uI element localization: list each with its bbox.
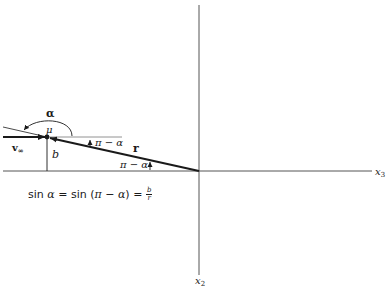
mu-point	[45, 135, 50, 140]
diagram-canvas	[0, 0, 390, 289]
b-over-r-fraction: br	[146, 187, 152, 202]
x2-axis-label: x2	[195, 276, 205, 288]
sine-relation-formula: sin α = sin (π − α) = br	[28, 187, 152, 202]
x3-axis-label: x3	[375, 167, 385, 179]
v-inf-label: v∞	[12, 143, 24, 154]
r-label: r	[133, 143, 139, 154]
pi-minus-alpha-top-label: π − α	[95, 138, 123, 148]
mu-label: μ	[46, 125, 53, 135]
scattering-geometry-diagram: α μ v∞ b r π − α π − α x3 x2 sin α = sin…	[0, 0, 390, 289]
b-label: b	[52, 149, 59, 160]
pi-minus-alpha-bottom-label: π − α	[120, 160, 148, 170]
alpha-label: α	[46, 108, 54, 119]
